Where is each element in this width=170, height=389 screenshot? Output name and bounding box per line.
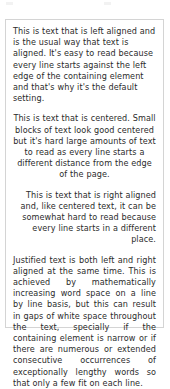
paragraph-left-aligned: This is text that is left aligned and is… xyxy=(13,26,156,104)
text-alignment-container: This is text that is left aligned and is… xyxy=(5,19,164,328)
paragraph-justified: Justified text is both left and right al… xyxy=(13,255,156,389)
paragraph-center-aligned: This is text that is centered. Small blo… xyxy=(13,113,156,180)
paragraph-right-aligned: This is text that is right aligned and, … xyxy=(13,190,156,246)
top-edge-artifact-left xyxy=(6,2,13,5)
top-edge-artifact-right xyxy=(104,2,111,5)
